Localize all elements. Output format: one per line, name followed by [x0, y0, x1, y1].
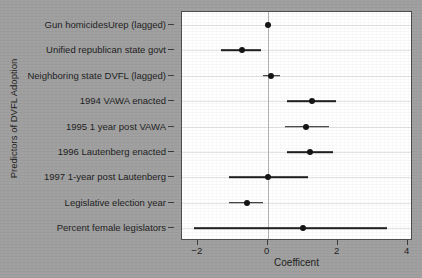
coefficient-point: [307, 149, 313, 155]
y-axis-tick-mark: [168, 126, 174, 127]
coefficient-point: [239, 47, 245, 53]
y-axis-tick-label: 1997 1-year post Lautenberg: [44, 171, 166, 182]
y-axis-tick-label: 1995 1 year post VAWA: [66, 120, 166, 131]
y-axis-tick-label: Gun homicidesUrep (lagged): [45, 18, 166, 29]
y-axis-tick-mark: [168, 176, 174, 177]
y-axis-tick-mark: [168, 227, 174, 228]
gridline: [182, 25, 411, 26]
y-axis-tick-label: Percent female legislators: [57, 222, 166, 233]
gridline: [182, 76, 411, 77]
x-axis-tick-label: −2: [191, 245, 202, 256]
y-axis-tick-label: Legislative election year: [65, 196, 166, 207]
y-axis-tick-label: Neighboring state DVFL (lagged): [27, 69, 166, 80]
coefficient-point: [309, 98, 315, 104]
coefficient-plot-figure: Gun homicidesUrep (lagged)Unified republ…: [0, 0, 422, 278]
y-axis-category-labels: Gun homicidesUrep (lagged)Unified republ…: [0, 11, 174, 240]
zero-reference-line: [268, 12, 269, 239]
y-axis-tick-mark: [168, 49, 174, 50]
gridline: [182, 50, 411, 51]
coefficient-point: [265, 174, 271, 180]
coefficient-point: [268, 73, 274, 79]
x-axis-tick-label: 0: [264, 245, 269, 256]
coefficient-point: [244, 200, 250, 206]
x-axis-title: Coefficent: [181, 257, 412, 268]
y-axis-title: Predictors of DVFL Adoption: [8, 14, 19, 224]
x-axis-tick-label: 2: [334, 245, 339, 256]
y-axis-tick-mark: [168, 202, 174, 203]
x-axis-tick-label: 4: [404, 245, 409, 256]
y-axis-tick-label: 1996 Lautenberg enacted: [58, 145, 166, 156]
plot-area: [181, 11, 412, 240]
coefficient-point: [300, 225, 306, 231]
coefficient-point: [265, 22, 271, 28]
y-axis-tick-mark: [168, 100, 174, 101]
y-axis-tick-mark: [168, 75, 174, 76]
y-axis-tick-label: 1994 VAWA enacted: [80, 95, 166, 106]
y-axis-tick-mark: [168, 24, 174, 25]
confidence-interval-bar: [194, 227, 387, 229]
gridline: [182, 203, 411, 204]
coefficient-point: [303, 124, 309, 130]
y-axis-tick-label: Unified republican state govt: [46, 44, 166, 55]
y-axis-tick-mark: [168, 151, 174, 152]
